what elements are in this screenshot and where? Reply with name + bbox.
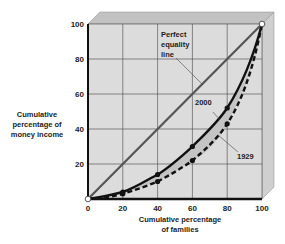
x-axis-label: Cumulative percentage of families: [120, 215, 240, 235]
equality-label-3: line: [161, 50, 174, 59]
equality-label-1: Perfect: [161, 30, 187, 39]
x-tick-20: 20: [118, 204, 127, 213]
y-tick-80: 80: [75, 55, 84, 64]
label-2000: 2000: [195, 98, 212, 107]
y-axis-label-line2: percentage of: [2, 120, 72, 130]
y-axis-label-line1: Cumulative: [2, 110, 72, 120]
y-tick-20: 20: [75, 160, 84, 169]
x-tick-40: 40: [153, 204, 162, 213]
y-tick-100: 100: [71, 20, 85, 29]
y-tick-40: 40: [75, 125, 84, 134]
y-axis-label: Cumulative percentage of money income: [2, 110, 72, 140]
x-tick-100: 100: [255, 204, 269, 213]
box-top-face: [88, 12, 274, 24]
x-tick-0: 0: [86, 204, 91, 213]
y-tick-60: 60: [75, 90, 84, 99]
x-tick-60: 60: [188, 204, 197, 213]
label-1929: 1929: [237, 152, 254, 161]
equality-label-2: equality: [161, 40, 190, 49]
x-tick-80: 80: [223, 204, 232, 213]
x-axis-label-line1: Cumulative percentage: [120, 215, 240, 225]
x-axis-label-line2: of families: [120, 225, 240, 235]
box-side-face: [262, 12, 274, 199]
origin-point: [85, 196, 91, 202]
endpoint-100: [259, 21, 265, 27]
y-axis-label-line3: money income: [2, 130, 72, 140]
